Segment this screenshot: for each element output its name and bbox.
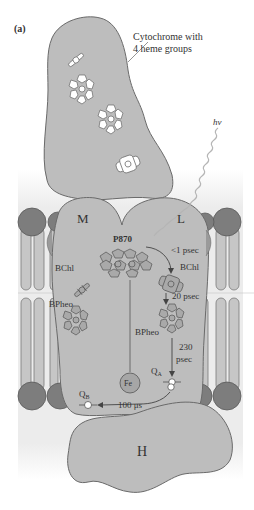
subunit-l-label: L [177, 211, 185, 226]
time-2-label: 20 psec [172, 291, 199, 301]
subunit-h-label: H [137, 444, 147, 459]
fe-label: Fe [124, 379, 132, 388]
photon-label: hν [213, 117, 222, 127]
time-3a-label: 230 [179, 342, 193, 352]
bchl-right-label: BChl [180, 262, 200, 272]
cytochrome-label-line1: Cytochrome with [133, 31, 203, 42]
time-4-label: 100 μs [118, 400, 143, 410]
bpheo-left-label: BPheo [49, 299, 74, 309]
time-3b-label: psec [176, 354, 192, 364]
bpheo-right-label: BPheo [135, 327, 160, 337]
bchl-left-label: BChl [55, 263, 75, 273]
panel-label: (a) [14, 23, 26, 35]
reaction-center-diagram: (a) Cytochrome with 4 heme groups hν M L… [0, 0, 254, 510]
cytochrome-label-line2: 4 heme groups [133, 43, 192, 54]
time-1-label: <1 psec [171, 245, 199, 255]
p870-label: P870 [113, 234, 132, 244]
subunit-m-label: M [77, 211, 89, 226]
